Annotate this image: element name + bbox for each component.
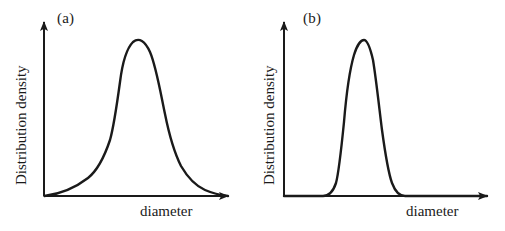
x-axis-label-a: diameter — [140, 203, 192, 220]
chart-panel-a: (a) diameter Distribution density — [0, 0, 252, 231]
distribution-curve-b — [284, 40, 487, 196]
chart-plot-a — [0, 0, 252, 231]
chart-panel-b: (b) diameter Distribution density — [253, 0, 505, 231]
x-axis-label-b: diameter — [406, 203, 458, 220]
panel-tag-a: (a) — [57, 10, 74, 27]
chart-plot-b — [253, 0, 505, 231]
panel-tag-b: (b) — [303, 10, 321, 27]
y-axis-label-a: Distribution density — [13, 65, 30, 185]
distribution-curve-a — [45, 40, 229, 196]
y-axis-label-b: Distribution density — [261, 65, 278, 185]
distribution-density-figure: (a) diameter Distribution density (b) di… — [0, 0, 505, 231]
